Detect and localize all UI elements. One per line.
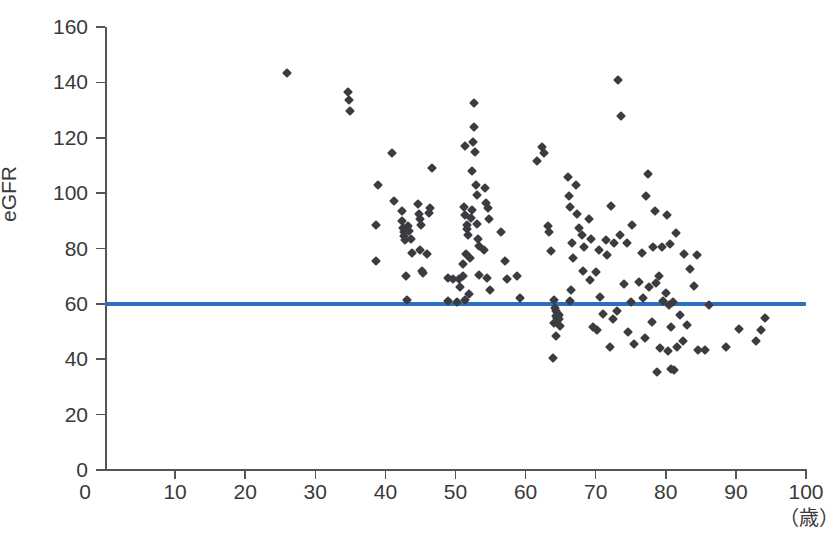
data-point bbox=[606, 201, 616, 211]
data-point bbox=[640, 334, 650, 344]
y-tick-100 bbox=[96, 192, 105, 194]
x-tick-50 bbox=[455, 470, 457, 479]
y-tick-label-140: 140 bbox=[53, 71, 88, 92]
data-point bbox=[344, 95, 354, 105]
x-tick-10 bbox=[174, 470, 176, 479]
data-point bbox=[760, 313, 770, 323]
data-point bbox=[598, 309, 608, 319]
data-point bbox=[484, 214, 494, 224]
x-tick-label-60: 60 bbox=[514, 481, 537, 502]
data-point bbox=[734, 324, 744, 334]
plot-area bbox=[105, 27, 806, 470]
data-point bbox=[652, 367, 662, 377]
y-axis-title: eGFR bbox=[0, 166, 19, 222]
y-tick-label-40: 40 bbox=[65, 348, 88, 369]
y-tick-0 bbox=[96, 469, 105, 471]
data-point bbox=[580, 242, 590, 252]
data-point bbox=[551, 331, 561, 341]
data-point bbox=[413, 199, 423, 209]
y-tick-label-100: 100 bbox=[53, 182, 88, 203]
data-point bbox=[662, 210, 672, 220]
data-point bbox=[650, 206, 660, 216]
data-point bbox=[682, 320, 692, 330]
data-point bbox=[700, 345, 710, 355]
data-point bbox=[613, 75, 623, 85]
data-point bbox=[416, 220, 426, 230]
x-tick-60 bbox=[525, 470, 527, 479]
data-point bbox=[502, 274, 512, 284]
data-point bbox=[465, 253, 475, 263]
y-tick-label-60: 60 bbox=[65, 293, 88, 314]
x-tick-label-70: 70 bbox=[584, 481, 607, 502]
data-point bbox=[587, 234, 597, 244]
x-tick-label-80: 80 bbox=[654, 481, 677, 502]
x-tick-90 bbox=[735, 470, 737, 479]
x-tick-label-0: 0 bbox=[79, 481, 91, 502]
x-tick-label-40: 40 bbox=[374, 481, 397, 502]
data-point bbox=[427, 163, 437, 173]
data-point bbox=[692, 250, 702, 260]
data-point bbox=[485, 285, 495, 295]
data-point bbox=[397, 206, 407, 216]
data-point bbox=[605, 342, 615, 352]
data-point bbox=[679, 249, 689, 259]
x-tick-40 bbox=[385, 470, 387, 479]
x-tick-label-50: 50 bbox=[444, 481, 467, 502]
data-point bbox=[592, 325, 602, 335]
y-tick-label-80: 80 bbox=[65, 238, 88, 259]
data-point bbox=[671, 228, 681, 238]
data-point bbox=[689, 281, 699, 291]
data-point bbox=[629, 339, 639, 349]
data-point bbox=[616, 111, 626, 121]
data-point bbox=[578, 266, 588, 276]
data-point bbox=[627, 220, 637, 230]
data-point bbox=[685, 264, 695, 274]
y-tick-160 bbox=[96, 26, 105, 28]
y-tick-80 bbox=[96, 248, 105, 250]
data-point bbox=[751, 336, 761, 346]
data-point bbox=[373, 180, 383, 190]
data-point bbox=[500, 256, 510, 266]
y-tick-label-20: 20 bbox=[65, 404, 88, 425]
data-point bbox=[591, 267, 601, 277]
data-point bbox=[571, 180, 581, 190]
data-point bbox=[595, 292, 605, 302]
x-tick-label-90: 90 bbox=[724, 481, 747, 502]
data-point bbox=[665, 239, 675, 249]
y-tick-40 bbox=[96, 358, 105, 360]
data-point bbox=[567, 238, 577, 248]
data-point bbox=[721, 342, 731, 352]
data-point bbox=[483, 203, 493, 213]
data-point bbox=[619, 280, 629, 290]
data-point bbox=[626, 298, 636, 308]
data-point bbox=[585, 275, 595, 285]
x-tick-70 bbox=[595, 470, 597, 479]
data-point bbox=[480, 183, 490, 193]
data-point bbox=[472, 190, 482, 200]
data-point bbox=[471, 180, 481, 190]
data-point bbox=[470, 147, 480, 157]
x-tick-label-10: 10 bbox=[163, 481, 186, 502]
data-point bbox=[584, 214, 594, 224]
data-point bbox=[546, 246, 556, 256]
x-tick-30 bbox=[315, 470, 317, 479]
y-tick-label-120: 120 bbox=[53, 127, 88, 148]
y-tick-label-160: 160 bbox=[53, 16, 88, 37]
data-point bbox=[512, 271, 522, 281]
data-point bbox=[371, 220, 381, 230]
data-point bbox=[666, 322, 676, 332]
x-axis-unit-label: （歳） bbox=[779, 508, 839, 528]
x-tick-20 bbox=[244, 470, 246, 479]
data-point bbox=[532, 156, 542, 166]
data-point bbox=[496, 227, 506, 237]
y-tick-60 bbox=[96, 303, 105, 305]
data-point bbox=[544, 227, 554, 237]
data-point bbox=[623, 327, 633, 337]
data-point bbox=[756, 325, 766, 335]
x-tick-label-100: 100 bbox=[788, 481, 823, 502]
data-point bbox=[389, 196, 399, 206]
data-point bbox=[387, 148, 397, 158]
data-point bbox=[401, 271, 411, 281]
data-point bbox=[455, 282, 465, 292]
x-tick-80 bbox=[665, 470, 667, 479]
